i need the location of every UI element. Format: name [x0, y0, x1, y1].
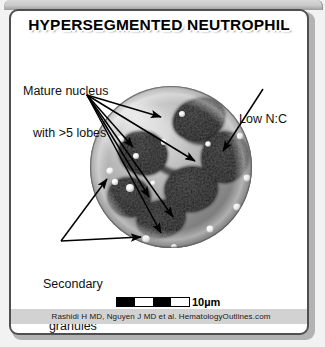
neutrophil-cell — [90, 86, 254, 250]
scale-bar-segment — [153, 298, 171, 306]
annotation-mature-nucleus-line1: Mature nucleus — [23, 84, 108, 98]
annotation-secondary-granules-line1: Secondary — [43, 277, 103, 291]
scale-bar-segments — [116, 297, 190, 307]
attribution-bar: Rashidi H MD, Nguyen J MD et al. Hematol… — [11, 309, 309, 324]
annotation-low-nc-line1: Low N:C — [239, 112, 287, 126]
annotation-low-nc: Low N:C — [239, 84, 287, 154]
scale-bar-segment — [135, 298, 153, 306]
attribution-text: Rashidi H MD, Nguyen J MD et al. Hematol… — [52, 312, 271, 321]
scale-bar-label: 10µm — [192, 297, 220, 307]
scale-bar: 10µm — [116, 297, 220, 307]
scale-bar-segment — [171, 298, 189, 306]
figure-panel: HYPERSEGMENTED NEUTROPHIL — [9, 9, 309, 335]
annotation-mature-nucleus-line2: with >5 lobes — [23, 126, 108, 140]
annotation-mature-nucleus: Mature nucleus with >5 lobes — [23, 56, 108, 168]
scale-bar-segment — [117, 298, 135, 306]
figure-root: HYPERSEGMENTED NEUTROPHIL — [0, 0, 325, 347]
